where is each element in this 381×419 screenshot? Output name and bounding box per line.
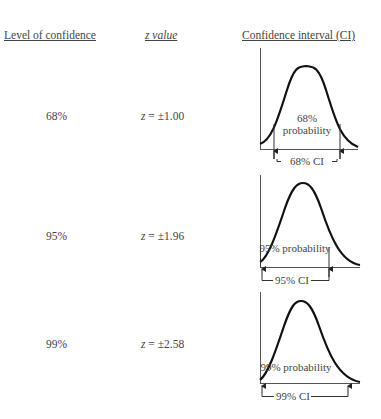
prob-label-99: 99% probability xyxy=(260,361,332,373)
ci-label-68: 68% CI xyxy=(290,155,324,167)
ci-label-99: 99% CI xyxy=(276,390,310,402)
curve-panel-99: 99% probability 99% CI xyxy=(260,292,360,402)
prob-label-95: 95% probability xyxy=(259,242,331,254)
prob-label-68-line2: probability xyxy=(283,124,332,136)
normal-curves-diagram: 68% probability 68% CI 95% probability 9… xyxy=(0,0,381,419)
ci-label-95: 95% CI xyxy=(275,274,309,286)
curve-panel-95: 95% probability 95% CI xyxy=(259,175,360,286)
prob-label-68: 68% xyxy=(297,112,317,124)
curve-panel-68: 68% probability 68% CI xyxy=(260,48,358,167)
